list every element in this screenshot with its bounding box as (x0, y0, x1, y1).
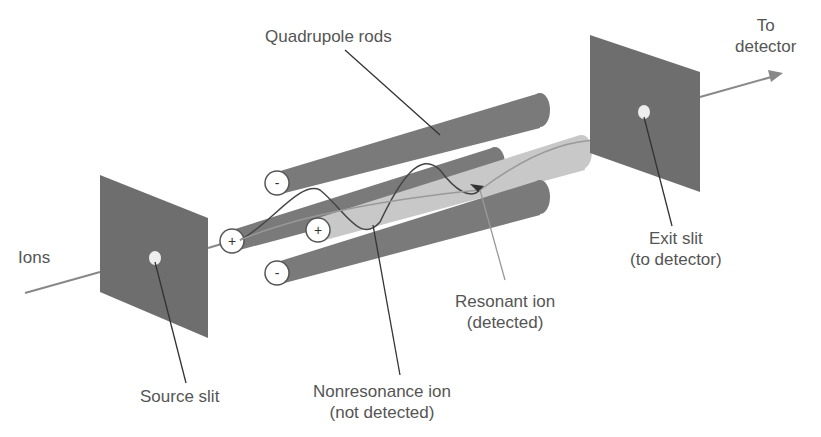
label-to-detector: To detector (735, 15, 796, 57)
label-ions: Ions (18, 247, 50, 268)
label-quadrupole-rods: Quadrupole rods (265, 26, 392, 47)
rod-top-sign: - (275, 175, 280, 191)
label-source-slit: Source slit (140, 386, 219, 407)
svg-text:-: - (275, 265, 280, 281)
svg-text:+: + (228, 233, 236, 249)
quadrupole-diagram: - + + - (0, 0, 821, 437)
svg-text:+: + (314, 222, 322, 238)
label-resonant-ion: Resonant ion (detected) (455, 291, 555, 333)
exit-slit-hole (638, 105, 650, 119)
label-exit-slit: Exit slit (to detector) (630, 228, 722, 270)
ion-beam-in (25, 272, 100, 293)
arrow-to-detector (768, 70, 783, 82)
label-nonresonance-ion: Nonresonance ion (not detected) (313, 381, 451, 423)
